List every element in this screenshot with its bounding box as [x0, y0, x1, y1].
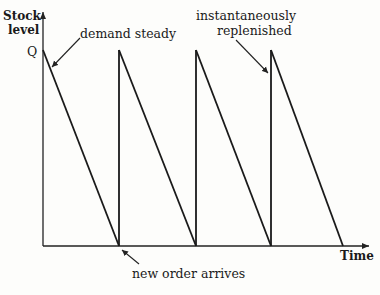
y-axis-label-line1: Stock: [3, 9, 42, 23]
depletion-line-1: [43, 50, 119, 246]
depletion-line-2: [119, 50, 196, 246]
depletion-line-4: [271, 50, 343, 246]
replenish-label-line2: replenished: [217, 23, 292, 38]
peak-label-q: Q: [27, 44, 37, 59]
stock-level-diagram: Stock level Q demand steady instantaneou…: [0, 0, 380, 295]
depletion-line-3: [196, 50, 271, 246]
sawtooth-series: [43, 50, 343, 246]
order-pointer-arrow: [122, 250, 139, 264]
y-axis-label-line2: level: [8, 23, 40, 37]
demand-pointer-arrow: [52, 38, 80, 67]
replenish-pointer-arrow: [236, 40, 268, 73]
x-axis-label: Time: [340, 249, 374, 263]
new-order-label: new order arrives: [132, 266, 245, 281]
demand-steady-label: demand steady: [80, 26, 177, 41]
replenish-label-line1: instantaneously: [196, 8, 297, 23]
